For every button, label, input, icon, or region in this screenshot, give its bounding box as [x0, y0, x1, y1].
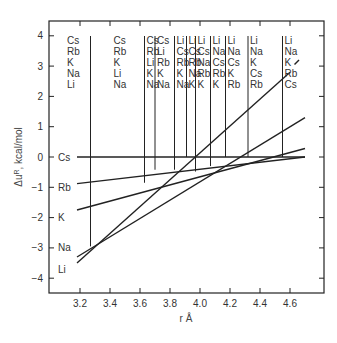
y-tick-label: −2	[32, 212, 44, 223]
ordering-label: Li	[177, 35, 185, 46]
ordering-label: Na	[198, 57, 211, 68]
ordering-label: Rb	[114, 46, 127, 57]
x-tick-label: 4.0	[193, 298, 207, 309]
ordering-label: Cs	[228, 57, 240, 68]
ordering-label: Rb	[213, 68, 226, 79]
ordering-label: K	[285, 57, 292, 68]
ordering-label: Rb	[157, 57, 170, 68]
y-tick-label: 0	[37, 152, 43, 163]
ordering-label: Rb	[285, 68, 298, 79]
ordering-label: K	[177, 68, 184, 79]
ordering-label: Li	[157, 46, 165, 57]
ordering-label: Li	[213, 35, 221, 46]
ordering-label: Cs	[250, 68, 262, 79]
x-tick-label: 4.6	[283, 298, 297, 309]
ordering-label: Rb	[67, 46, 80, 57]
left-label-cs: Cs	[58, 152, 70, 163]
ordering-label: K	[157, 68, 164, 79]
region-ordering-labels: CsRbKNaLiCsRbKLiNaCsRbLiKNaCsLiRbKNaLiCs…	[67, 35, 298, 90]
ordering-label: K	[189, 79, 196, 90]
ordering-label: Li	[250, 35, 258, 46]
series-line-li	[77, 72, 290, 263]
x-axis-label: r Å	[180, 312, 193, 324]
ordering-label: Cs	[198, 46, 210, 57]
data-series	[77, 60, 305, 263]
ordering-label: Li	[285, 35, 293, 46]
left-label-rb: Rb	[58, 182, 71, 193]
x-tick-label: 4.4	[253, 298, 267, 309]
ordering-label: K	[114, 57, 121, 68]
ordering-label: Cs	[67, 35, 79, 46]
ordering-label: Li	[198, 35, 206, 46]
ordering-label: K	[67, 57, 74, 68]
ordering-label: K	[213, 79, 220, 90]
left-label-k: K	[58, 212, 65, 223]
li-extension-dash	[295, 60, 300, 65]
ordering-label: Na	[157, 79, 170, 90]
x-tick-label: 3.2	[73, 298, 87, 309]
y-tick-label: 2	[37, 91, 43, 102]
ion-exchange-chart: 3.23.43.63.84.04.24.44.6 43210−1−2−3−4 C…	[0, 0, 337, 343]
ordering-label: K	[228, 68, 235, 79]
y-tick-label: −3	[32, 242, 44, 253]
ordering-label: Cs	[114, 35, 126, 46]
ordering-label: Cs	[177, 46, 189, 57]
ordering-label: Li	[114, 68, 122, 79]
ordering-label: Rb	[198, 68, 211, 79]
y-tick-label: −1	[32, 182, 44, 193]
ordering-label: Na	[67, 68, 80, 79]
ordering-label: Li	[228, 35, 236, 46]
left-label-na: Na	[58, 242, 71, 253]
ordering-label: Na	[213, 46, 226, 57]
ordering-label: Na	[285, 46, 298, 57]
ordering-label: K	[198, 79, 205, 90]
ordering-label: Na	[114, 79, 127, 90]
ordering-label: Na	[250, 46, 263, 57]
series-left-labels: CsRbKNaLi	[58, 152, 71, 275]
ordering-label: Rb	[250, 79, 263, 90]
y-axis-label: ΔuR, kcal/mol	[13, 127, 25, 187]
y-tick-label: −4	[32, 273, 44, 284]
ordering-label: Cs	[285, 79, 297, 90]
series-line-na	[77, 118, 305, 257]
ordering-label: Cs	[157, 35, 169, 46]
ordering-label: Li	[67, 79, 75, 90]
y-tick-label: 4	[37, 30, 43, 41]
x-tick-label: 3.4	[103, 298, 117, 309]
ordering-label: Rb	[228, 79, 241, 90]
x-tick-label: 4.2	[223, 298, 237, 309]
y-tick-label: 1	[37, 121, 43, 132]
ordering-label: K	[250, 57, 257, 68]
ordering-label: Li	[147, 57, 155, 68]
ordering-label: K	[147, 68, 154, 79]
ordering-label: Li	[189, 35, 197, 46]
y-tick-label: 3	[37, 61, 43, 72]
x-tick-label: 3.8	[163, 298, 177, 309]
x-tick-label: 3.6	[133, 298, 147, 309]
ordering-label: Cs	[213, 57, 225, 68]
ordering-label: Na	[228, 46, 241, 57]
left-label-li: Li	[58, 264, 66, 275]
